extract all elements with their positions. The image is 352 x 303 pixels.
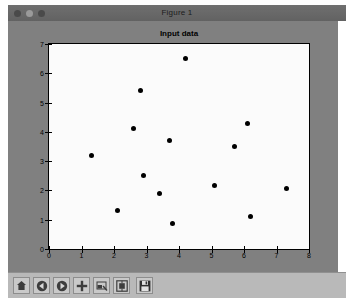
- x-axis-tick-inner: [82, 246, 83, 249]
- home-icon[interactable]: [13, 277, 30, 294]
- x-axis-tick-label: 0: [47, 252, 51, 259]
- scatter-point: [141, 173, 146, 178]
- scatter-point: [248, 214, 253, 219]
- back-arrow-icon[interactable]: [33, 277, 50, 294]
- x-axis-tick-inner: [147, 246, 148, 249]
- screenshot-root: Figure 1 Input data 01234567012345678: [0, 0, 352, 303]
- x-axis-tick-label: 5: [210, 252, 214, 259]
- scatter-point: [232, 144, 237, 149]
- scatter-point: [115, 208, 120, 213]
- x-axis-tick-label: 2: [112, 252, 116, 259]
- scatter-point: [170, 221, 175, 226]
- configure-subplots-icon[interactable]: [113, 277, 130, 294]
- x-axis-tick-inner: [309, 246, 310, 249]
- y-axis-tick-label: 6: [40, 70, 44, 77]
- scatter-point: [183, 56, 188, 61]
- y-axis-tick-inner: [49, 190, 52, 191]
- y-axis-tick-inner: [49, 161, 52, 162]
- scatter-point: [284, 186, 289, 191]
- x-axis-tick-label: 1: [80, 252, 84, 259]
- x-axis-tick-inner: [114, 246, 115, 249]
- x-axis-tick-label: 4: [177, 252, 181, 259]
- y-axis-tick-inner: [49, 220, 52, 221]
- scatter-point: [245, 121, 250, 126]
- y-axis-tick-label: 7: [40, 41, 44, 48]
- y-axis-tick-label: 3: [40, 158, 44, 165]
- zoom-rect-icon[interactable]: [93, 277, 110, 294]
- figure-right-margin: [338, 21, 346, 273]
- x-axis-tick-inner: [244, 246, 245, 249]
- x-axis-tick-label: 8: [307, 252, 311, 259]
- x-axis-tick-inner: [277, 246, 278, 249]
- x-axis-tick-label: 6: [242, 252, 246, 259]
- x-axis-tick-inner: [49, 246, 50, 249]
- save-disk-icon[interactable]: [136, 277, 153, 294]
- scatter-point: [212, 183, 217, 188]
- pan-move-icon[interactable]: [73, 277, 90, 294]
- y-axis-tick-inner: [49, 132, 52, 133]
- scatter-point: [89, 153, 94, 158]
- y-axis-tick-label: 2: [40, 187, 44, 194]
- figure-window: Figure 1 Input data 01234567012345678: [8, 5, 346, 298]
- scatter-point: [167, 138, 172, 143]
- x-axis-tick-label: 3: [145, 252, 149, 259]
- figure-canvas: Input data 01234567012345678: [8, 21, 346, 273]
- scatter-point: [157, 191, 162, 196]
- y-axis-tick-inner: [49, 44, 52, 45]
- y-axis-tick-label: 5: [40, 99, 44, 106]
- y-axis-tick-inner: [49, 103, 52, 104]
- forward-arrow-icon[interactable]: [53, 277, 70, 294]
- scatter-plot-axes[interactable]: 01234567012345678: [48, 43, 310, 250]
- scatter-point: [131, 126, 136, 131]
- chart-title: Input data: [48, 29, 310, 38]
- x-axis-tick-inner: [179, 246, 180, 249]
- y-axis-tick-label: 0: [40, 246, 44, 253]
- x-axis-tick-label: 7: [275, 252, 279, 259]
- navigation-toolbar: [8, 272, 346, 298]
- window-title: Figure 1: [8, 5, 346, 21]
- scatter-point: [138, 88, 143, 93]
- window-titlebar[interactable]: Figure 1: [8, 5, 346, 22]
- x-axis-tick-inner: [212, 246, 213, 249]
- y-axis-tick-label: 1: [40, 216, 44, 223]
- y-axis-tick-label: 4: [40, 128, 44, 135]
- y-axis-tick-inner: [49, 73, 52, 74]
